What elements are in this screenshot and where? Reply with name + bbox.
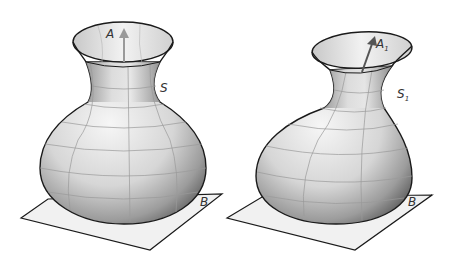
diagram-canvas: A S B A1 S1 B [0, 0, 456, 267]
vase-opening-right [311, 29, 413, 70]
axis-label-left: A [105, 27, 114, 41]
plane-label-left: B [200, 195, 208, 209]
left-figure: A S B [21, 22, 222, 250]
surface-label-left: S [160, 81, 168, 95]
surface-label-right: S1 [397, 87, 409, 103]
right-figure: A1 S1 B [227, 29, 432, 250]
plane-label-right: B [408, 195, 416, 209]
